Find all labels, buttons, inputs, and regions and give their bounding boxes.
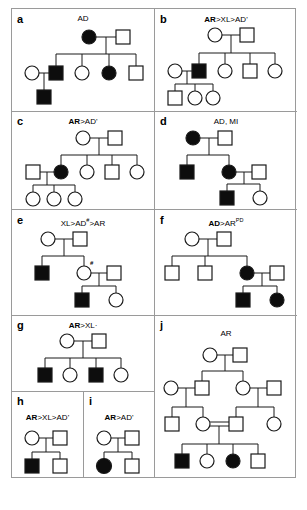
- panel-c: c AR>AD': [12, 112, 154, 209]
- pedigree-d: [155, 112, 297, 209]
- pedigree-c: [12, 112, 154, 209]
- pedigree-g: [12, 316, 154, 391]
- pedigree-j: [155, 316, 297, 478]
- panel-a: a AD: [12, 9, 154, 111]
- panel-g: g AR>XL·: [12, 316, 154, 391]
- panel-b: b AR>XL>AD': [155, 9, 297, 111]
- panel-h: h AR>XL>AD': [12, 392, 83, 478]
- pedigree-e: #: [12, 210, 154, 315]
- panel-d: d AD, MI: [155, 112, 297, 209]
- pedigree-figure: a AD b AR>XL>AD': [11, 8, 296, 478]
- panel-f: f AD>ARPD: [155, 210, 297, 315]
- hash-marker: #: [90, 260, 94, 266]
- pedigree-a: [12, 9, 154, 111]
- pedigree-i: [84, 392, 154, 478]
- panel-e: e XL>AD#>AR #: [12, 210, 154, 315]
- panel-i: i AR>AD': [84, 392, 154, 478]
- panel-j: j AR: [155, 316, 297, 478]
- pedigree-f: [155, 210, 297, 315]
- pedigree-h: [12, 392, 83, 478]
- pedigree-b: [155, 9, 297, 111]
